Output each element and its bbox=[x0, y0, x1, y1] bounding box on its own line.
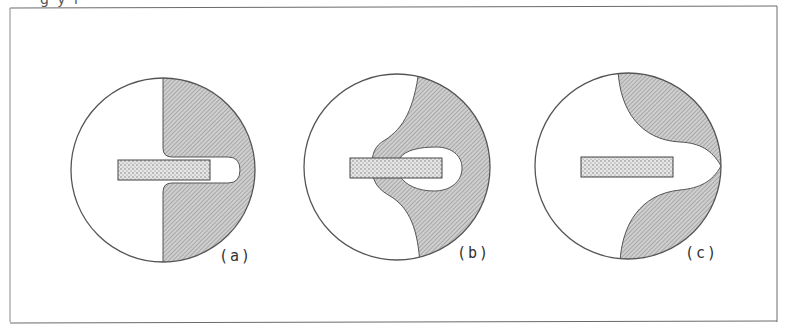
stippled-bar-b bbox=[350, 158, 442, 178]
diagram-c: (c) bbox=[535, 60, 740, 272]
label-a: (a) bbox=[219, 247, 252, 265]
label-b: (b) bbox=[457, 244, 490, 262]
stippled-bar-a bbox=[118, 160, 210, 180]
figure-panel: (a) (b) (c) bbox=[0, 0, 789, 328]
diagram-b: (b) bbox=[304, 70, 500, 265]
stippled-bar-c bbox=[581, 157, 673, 177]
diagram-a: (a) bbox=[71, 70, 270, 270]
label-c: (c) bbox=[685, 244, 718, 262]
